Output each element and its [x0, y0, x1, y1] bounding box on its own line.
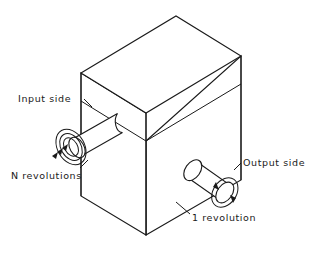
label-output-side: Output side — [243, 157, 305, 168]
label-input-side: Input side — [18, 93, 71, 104]
label-one-revolution: 1 revolution — [192, 212, 256, 223]
spiral-arrowhead-outer — [52, 152, 58, 159]
output-arrowhead — [230, 195, 236, 203]
label-n-revolutions: N revolutions — [11, 170, 82, 181]
spiral-arrowhead-inner — [62, 144, 68, 151]
gearbox-diagram — [0, 0, 320, 253]
